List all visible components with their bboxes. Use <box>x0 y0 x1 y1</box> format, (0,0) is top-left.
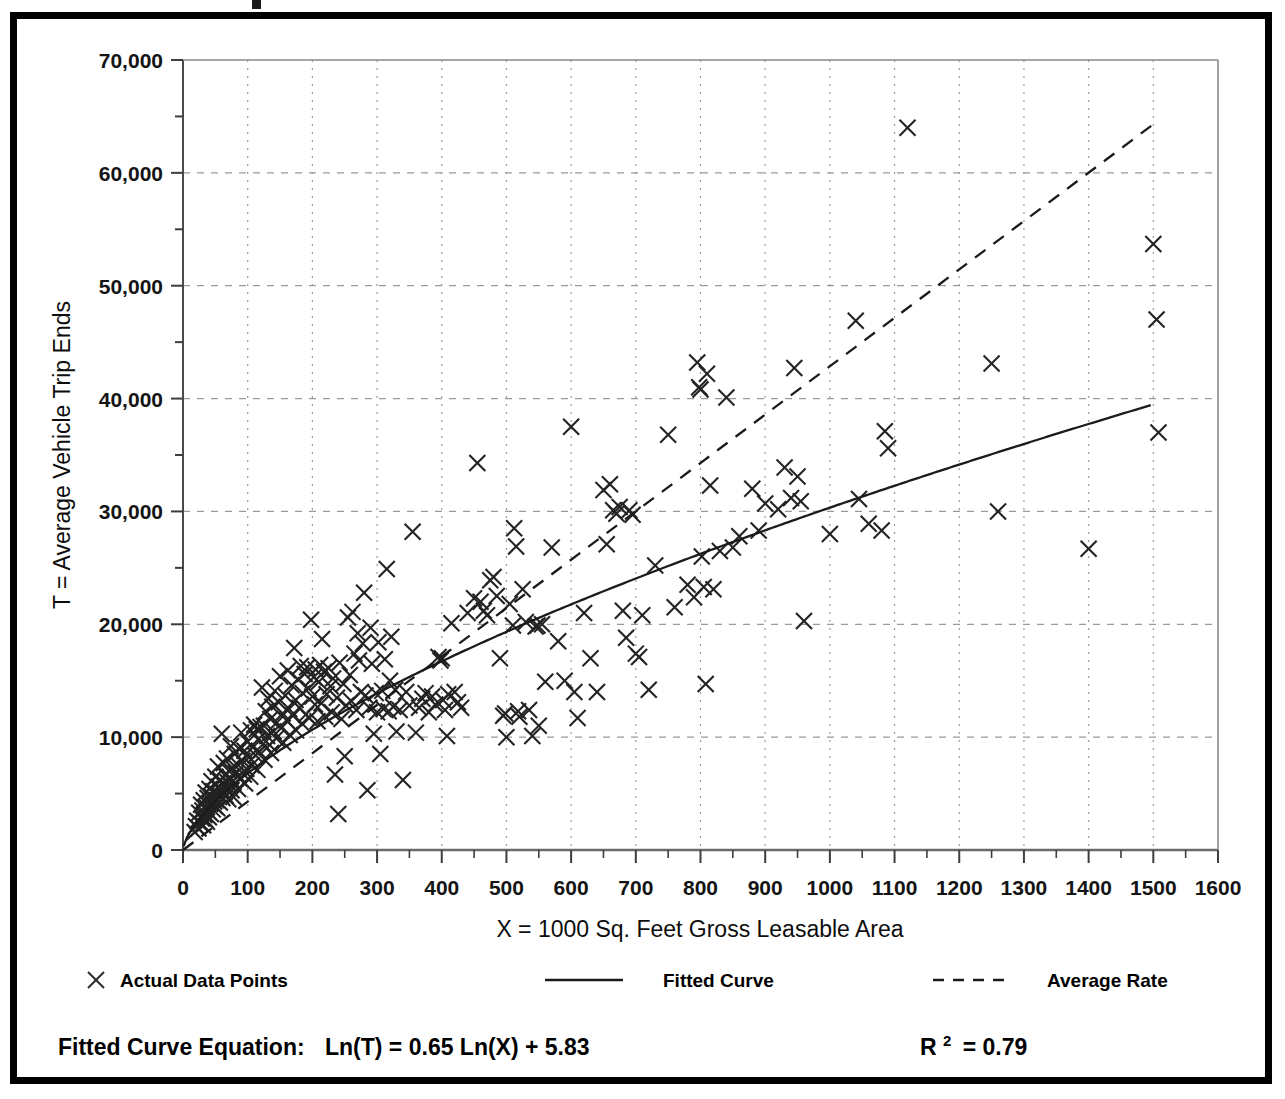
y-axis-title: T = Average Vehicle Trip Ends <box>49 301 75 609</box>
x-tick-label: 1500 <box>1130 876 1177 899</box>
legend-item-fitted-curve[interactable]: Fitted Curve <box>545 970 774 991</box>
legend-item-average-rate[interactable]: Average Rate <box>933 970 1168 991</box>
x-tick-label: 1300 <box>1001 876 1048 899</box>
y-axis-tick-labels: 010,00020,00030,00040,00050,00060,00070,… <box>99 49 163 862</box>
scatter-chart: 010,00020,00030,00040,00050,00060,00070,… <box>0 0 1285 1099</box>
legend-label-fitted-curve: Fitted Curve <box>663 970 774 991</box>
x-axis-ticks <box>183 850 1218 863</box>
chart-page: 010,00020,00030,00040,00050,00060,00070,… <box>0 0 1285 1099</box>
x-tick-label: 300 <box>360 876 395 899</box>
x-tick-label: 700 <box>618 876 653 899</box>
x-tick-label: 500 <box>489 876 524 899</box>
legend-item-actual-data-points[interactable]: Actual Data Points <box>88 970 288 991</box>
r-squared-value: R 2 = 0.79 <box>920 1025 1027 1060</box>
x-tick-label: 400 <box>424 876 459 899</box>
x-tick-label: 800 <box>683 876 718 899</box>
x-tick-label: 1200 <box>936 876 983 899</box>
average-rate-line <box>183 124 1153 850</box>
x-tick-label: 100 <box>230 876 265 899</box>
x-tick-label: 0 <box>177 876 189 899</box>
y-tick-label: 70,000 <box>99 49 163 72</box>
fitted-curve-equation-label: Fitted Curve Equation: Ln(T) = 0.65 Ln(X… <box>58 1034 590 1060</box>
y-tick-label: 20,000 <box>99 613 163 636</box>
x-axis-title: X = 1000 Sq. Feet Gross Leasable Area <box>496 916 903 942</box>
x-axis-tick-labels: 0100200300400500600700800900100011001200… <box>177 876 1241 899</box>
y-axis-ticks <box>171 60 183 850</box>
y-tick-label: 30,000 <box>99 500 163 523</box>
x-tick-label: 1600 <box>1195 876 1242 899</box>
legend-label-average-rate: Average Rate <box>1047 970 1168 991</box>
y-tick-label: 60,000 <box>99 162 163 185</box>
y-tick-label: 0 <box>151 839 163 862</box>
x-tick-label: 600 <box>554 876 589 899</box>
y-tick-label: 50,000 <box>99 275 163 298</box>
vertical-gridlines <box>248 60 1154 850</box>
legend-label-actual-data-points: Actual Data Points <box>120 970 288 991</box>
y-tick-label: 10,000 <box>99 726 163 749</box>
y-tick-label: 40,000 <box>99 388 163 411</box>
legend: Actual Data Points Fitted Curve Average … <box>88 970 1168 991</box>
x-tick-label: 900 <box>748 876 783 899</box>
x-tick-label: 200 <box>295 876 330 899</box>
x-tick-label: 1100 <box>872 876 918 899</box>
x-tick-label: 1000 <box>807 876 854 899</box>
data-point-markers <box>187 120 1167 840</box>
footer: Fitted Curve Equation: Ln(T) = 0.65 Ln(X… <box>58 1025 1027 1060</box>
x-tick-label: 1400 <box>1065 876 1112 899</box>
x-marker-icon <box>88 972 104 988</box>
